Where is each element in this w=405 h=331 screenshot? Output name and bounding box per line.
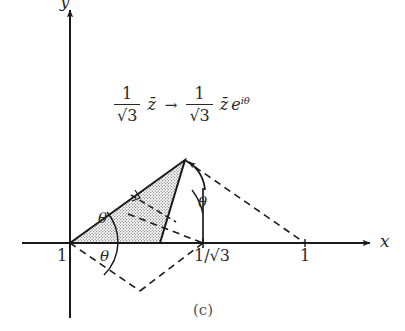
right-z-letter: z̄ [220,95,228,114]
left-z-conjugate: z̄ [147,95,155,114]
right-fraction-denominator: √3 [186,105,212,125]
exponential-exponent: iθ [241,95,250,106]
y-axis-label: y [60,0,70,10]
tick-label-inv-sqrt3: 1/√3 [194,248,230,264]
figure-caption: (c) [193,303,213,318]
inv-sqrt3-text: 1/√3 [194,246,230,265]
left-fraction-denominator: √3 [114,105,140,125]
left-z-letter: z̄ [147,95,155,114]
maps-to-arrow-icon: → [165,96,178,114]
angle-label-apex: θ [198,195,207,210]
x-axis-label: x [380,233,390,250]
right-z-conjugate: z̄ [220,95,228,114]
complex-plane-diagram [0,0,405,331]
right-fraction: 1 √3 [186,84,212,125]
left-fraction-numerator: 1 [118,84,136,104]
exponential-factor: eiθ [231,95,250,114]
shaded-triangle [70,160,185,243]
transformation-formula: 1 √3 z̄ → 1 √3 z̄ eiθ [112,84,250,125]
tick-label-origin-one: 1 [57,248,67,264]
left-fraction: 1 √3 [114,84,140,125]
rotation-arrow [189,162,205,190]
angle-label-upper: θ [98,211,107,226]
tick-label-right-one: 1 [300,248,310,264]
exponential-base: e [231,95,240,114]
angle-label-lower: θ [100,249,109,264]
figure-container: x y 1 1 1/√3 θ θ θ 1 √3 z̄ → 1 √3 z̄ eiθ… [0,0,405,331]
right-fraction-numerator: 1 [190,84,208,104]
